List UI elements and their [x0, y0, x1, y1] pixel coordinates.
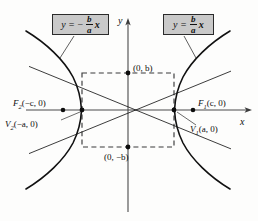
co-vertex-bottom-label: (0, −b) [104, 152, 129, 162]
asymptote-positive-equation: y = b a x [173, 15, 204, 35]
point-vertex-left [80, 108, 85, 113]
fraction-denominator: a [86, 24, 93, 35]
asymptote-negative-callout: y = − b a x [52, 14, 109, 35]
point-co-vertex-top [126, 71, 131, 76]
equation-equals: = [179, 19, 189, 30]
equation-lhs: y [173, 19, 178, 30]
leader-line-left [60, 36, 74, 58]
vertex-right-label: V1(a, 0) [190, 124, 218, 136]
hyperbola-figure: y = − b a x y = b a x y x (0, b) (0, −b)… [0, 0, 258, 221]
asymptote-positive [29, 71, 231, 154]
leader-line-vertex-left [61, 112, 80, 120]
equation-fraction: b a [190, 15, 197, 35]
fraction-numerator: b [190, 15, 197, 25]
point-focus-left [61, 108, 66, 113]
point-co-vertex-bottom [126, 145, 131, 150]
focus-left-label: F2(−c, 0) [13, 98, 46, 110]
focus-right-coords: (c, 0) [207, 98, 226, 108]
equation-lhs: y [61, 19, 66, 30]
point-vertex-right [172, 108, 177, 113]
focus-right-label: F1(c, 0) [198, 98, 226, 110]
fraction-numerator: b [86, 15, 93, 25]
equation-variable: x [94, 19, 100, 30]
asymptote-negative-equation: y = − b a x [61, 15, 100, 35]
equation-equals: = [67, 19, 77, 30]
focus-left-coords: (−c, 0) [22, 98, 46, 108]
vertex-left-coords: (−a, 0) [14, 119, 38, 129]
axes-group [26, 18, 252, 212]
equation-fraction: b a [86, 15, 93, 35]
co-vertex-top-label: (0, b) [133, 63, 153, 73]
vertex-right-coords: (a, 0) [199, 124, 218, 134]
x-axis-label: x [240, 116, 244, 127]
equation-variable: x [198, 19, 204, 30]
y-axis-label: y [118, 15, 122, 26]
leader-line-right [184, 36, 196, 58]
hyperbola-plot [0, 0, 258, 221]
vertex-left-label: V2(−a, 0) [5, 119, 38, 131]
asymptote-positive-callout: y = b a x [163, 14, 214, 35]
point-focus-right [191, 108, 196, 113]
equation-sign: − [78, 19, 85, 30]
fraction-denominator: a [190, 24, 197, 35]
